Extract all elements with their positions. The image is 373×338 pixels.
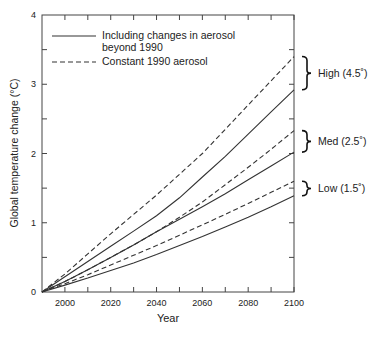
x-tick-label: 2000 (55, 298, 75, 308)
legend-label-solid: Including changes in aerosol (102, 29, 235, 41)
scenario-label: Low (1.5˚) (318, 182, 365, 194)
solid-series-line (42, 152, 294, 292)
scenario-annotations: High (4.5˚)Med (2.5˚)Low (1.5˚) (302, 57, 368, 196)
y-tick-label: 1 (31, 218, 36, 228)
y-tick-label: 2 (31, 149, 36, 159)
dashed-series-line (42, 181, 294, 292)
dashed-series-line (42, 57, 294, 292)
series-lines (42, 57, 294, 292)
x-tick-label: 2060 (192, 298, 212, 308)
brace-icon (302, 57, 311, 90)
x-tick-label: 2020 (101, 298, 121, 308)
x-axis-label: Year (157, 312, 180, 324)
scenario-label: Med (2.5˚) (318, 135, 366, 147)
legend-label-dashed: Constant 1990 aerosol (102, 55, 208, 67)
x-tick-label: 2040 (147, 298, 167, 308)
y-axis-label: Global temperature change (°C) (8, 79, 20, 228)
scenario-label: High (4.5˚) (318, 67, 368, 79)
y-tick-label: 4 (31, 10, 36, 20)
legend-label-solid-cont: beyond 1990 (102, 41, 163, 53)
brace-icon (302, 131, 311, 152)
x-tick-label: 2100 (284, 298, 304, 308)
solid-series-line (42, 90, 294, 292)
y-tick-label: 0 (31, 287, 36, 297)
x-tick-label: 2080 (238, 298, 258, 308)
y-tick-label: 3 (31, 79, 36, 89)
brace-icon (302, 181, 311, 196)
temperature-chart: 20002020204020602080210001234 Including … (0, 0, 373, 338)
dashed-series-line (42, 131, 294, 292)
legend: Including changes in aerosolbeyond 1990C… (52, 29, 235, 67)
